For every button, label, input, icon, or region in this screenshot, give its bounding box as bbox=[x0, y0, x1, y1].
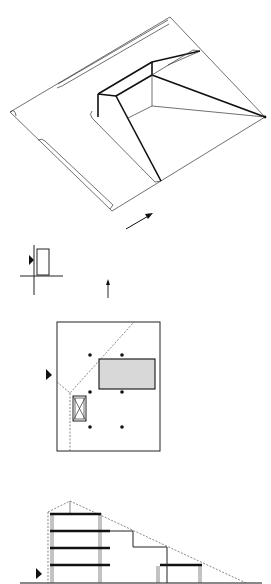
site-outline bbox=[10, 17, 265, 211]
building-section bbox=[20, 501, 262, 583]
rim-to-top bbox=[152, 50, 200, 75]
apex-point bbox=[264, 116, 267, 119]
axonometric-view bbox=[10, 17, 266, 229]
lift-box[interactable] bbox=[73, 396, 86, 421]
key-plan bbox=[20, 245, 110, 298]
pit-front-edge bbox=[116, 96, 161, 181]
architectural-diagram bbox=[0, 0, 271, 584]
ridge-to-apex bbox=[152, 75, 265, 117]
direction-arrow-icon bbox=[126, 213, 153, 229]
pit-floor-left bbox=[128, 106, 152, 118]
apex-to-top bbox=[168, 52, 198, 65]
gray-block[interactable] bbox=[99, 359, 155, 389]
pit-outer-groove bbox=[91, 111, 162, 182]
section-entry-marker-icon bbox=[36, 568, 42, 579]
stepped-profile bbox=[110, 531, 167, 583]
floor-slabs bbox=[50, 514, 202, 565]
entry-marker-icon bbox=[29, 255, 34, 265]
key-building[interactable] bbox=[37, 249, 49, 275]
floor-plan bbox=[46, 322, 160, 451]
north-arrow-icon bbox=[106, 279, 110, 298]
plan-entry-marker-icon bbox=[46, 369, 52, 380]
